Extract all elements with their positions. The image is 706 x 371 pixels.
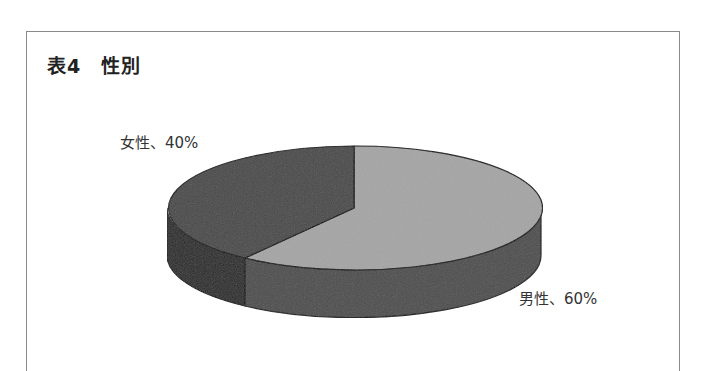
data-label-male: 男性、60% bbox=[519, 287, 597, 308]
data-label-female: 女性、40% bbox=[120, 131, 198, 152]
